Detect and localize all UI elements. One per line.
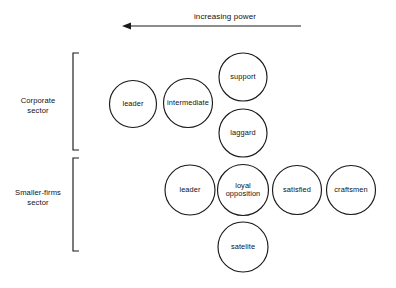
sector-label-smaller-firms-sector-line2: sector	[27, 198, 49, 207]
sector-positioning-diagram: increasing power CorporatesectorSmaller-…	[0, 0, 396, 288]
node-leader-smaller-firms[interactable]: leader	[165, 165, 215, 215]
node-label-support: support	[230, 72, 255, 81]
node-support[interactable]: support	[219, 53, 267, 101]
node-intermediate[interactable]: intermediate	[164, 79, 213, 128]
sector-label-corporate-sector-line2: sector	[27, 106, 49, 115]
node-label-leader-smaller-firms: leader	[179, 185, 201, 194]
node-label-leader-corporate: leader	[122, 99, 144, 108]
bracket-corporate-sector	[73, 53, 79, 150]
node-laggard[interactable]: laggard	[219, 109, 267, 157]
node-satelite[interactable]: satelite	[218, 222, 268, 272]
node-leader-corporate[interactable]: leader	[110, 81, 157, 128]
node-satisfied[interactable]: satisfied	[273, 166, 322, 215]
node-circles: leaderintermediatesupportlaggardleaderlo…	[110, 53, 376, 272]
node-label-craftsmen: craftsmen	[334, 185, 367, 194]
axis-label: increasing power	[194, 12, 256, 21]
node-craftsmen[interactable]: craftsmen	[327, 166, 376, 215]
sector-label-smaller-firms-sector-line1: Smaller-firms	[15, 188, 61, 197]
sector-brackets	[73, 53, 79, 251]
node-label-intermediate: intermediate	[167, 98, 209, 107]
increasing-power-axis: increasing power	[122, 12, 301, 29]
node-label-satisfied: satisfied	[283, 185, 311, 194]
sector-label-corporate-sector-line1: Corporate	[21, 96, 56, 105]
node-label-satelite: satelite	[231, 242, 255, 251]
diagram-canvas: increasing power CorporatesectorSmaller-…	[0, 0, 396, 288]
node-label-loyal-opposition-line2: opposition	[226, 189, 261, 198]
sector-labels: CorporatesectorSmaller-firmssector	[15, 96, 61, 207]
node-loyal-opposition[interactable]: loyalopposition	[218, 165, 269, 216]
bracket-smaller-firms-sector	[73, 158, 79, 251]
axis-arrowhead-icon	[122, 23, 131, 30]
node-label-laggard: laggard	[230, 128, 255, 137]
